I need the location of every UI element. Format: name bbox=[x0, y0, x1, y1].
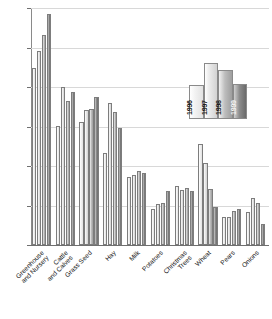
bar-group bbox=[127, 8, 146, 245]
legend-label: 1998 bbox=[215, 100, 222, 115]
bar bbox=[190, 191, 194, 246]
bar bbox=[208, 189, 212, 245]
bar bbox=[137, 171, 141, 245]
y-axis-tick-mark bbox=[27, 48, 31, 49]
bar bbox=[166, 191, 170, 246]
bar bbox=[37, 51, 41, 245]
bar bbox=[127, 177, 131, 245]
bar bbox=[132, 175, 136, 245]
bar bbox=[161, 203, 165, 245]
y-axis-tick-mark bbox=[27, 166, 31, 167]
bar bbox=[256, 203, 260, 245]
bar bbox=[118, 128, 122, 245]
x-axis-label: Wheat bbox=[194, 249, 213, 268]
x-axis-label-line: Hay bbox=[103, 249, 117, 263]
legend-label: 1999 bbox=[230, 100, 237, 115]
bar bbox=[66, 101, 70, 245]
x-axis-label-line: Pears bbox=[219, 249, 236, 266]
bar-group bbox=[56, 8, 75, 245]
bar-group bbox=[32, 8, 51, 245]
bar bbox=[156, 204, 160, 245]
bar-group bbox=[79, 8, 98, 245]
bar bbox=[89, 109, 93, 245]
bar bbox=[113, 112, 117, 245]
y-axis-tick-mark bbox=[27, 206, 31, 207]
bar bbox=[108, 103, 112, 245]
bar bbox=[61, 87, 65, 245]
bar bbox=[261, 224, 265, 245]
bar bbox=[71, 92, 75, 245]
bar-group bbox=[151, 8, 170, 245]
bar bbox=[42, 35, 46, 245]
bar bbox=[213, 207, 217, 245]
plot-area bbox=[31, 8, 269, 245]
y-axis-tick-mark bbox=[27, 8, 31, 9]
bar bbox=[94, 97, 98, 245]
x-axis-label: ChristmasTrees bbox=[162, 249, 193, 280]
chart-legend: 1996199719981999 bbox=[189, 63, 247, 119]
bar bbox=[180, 190, 184, 245]
bar bbox=[222, 217, 226, 245]
x-axis-line bbox=[31, 245, 269, 246]
bar bbox=[56, 126, 60, 245]
y-axis-tick-mark bbox=[27, 87, 31, 88]
x-axis-label: Hay bbox=[103, 249, 117, 263]
bar bbox=[32, 68, 36, 245]
bar bbox=[84, 110, 88, 245]
bar bbox=[227, 217, 231, 245]
bar bbox=[198, 144, 202, 246]
legend-label: 1996 bbox=[186, 100, 193, 115]
bar-group bbox=[103, 8, 122, 245]
bar bbox=[175, 186, 179, 245]
bar bbox=[79, 122, 83, 245]
bar bbox=[151, 209, 155, 245]
legend-label: 1997 bbox=[201, 100, 208, 115]
x-axis-label: Milk bbox=[127, 249, 141, 263]
bar bbox=[251, 198, 255, 245]
bar bbox=[47, 14, 51, 245]
y-axis-tick-mark bbox=[27, 245, 31, 246]
bar bbox=[103, 153, 107, 245]
x-axis-label: Pears bbox=[219, 249, 236, 266]
bar bbox=[203, 163, 207, 245]
bar bbox=[232, 211, 236, 245]
bar bbox=[185, 188, 189, 245]
y-axis-tick-mark bbox=[27, 127, 31, 128]
bar-group bbox=[198, 8, 217, 245]
bar-chart: $0$100$200$300$400$500$600 Greenhouseand… bbox=[0, 0, 272, 319]
x-axis-label-line: Onions bbox=[240, 249, 260, 269]
bar-group bbox=[222, 8, 241, 245]
x-axis-label-line: Wheat bbox=[194, 249, 213, 268]
bar bbox=[142, 173, 146, 245]
x-axis-label: Onions bbox=[240, 249, 260, 269]
bar bbox=[246, 212, 250, 245]
bar-group bbox=[246, 8, 265, 245]
bar bbox=[237, 209, 241, 245]
bar-group bbox=[175, 8, 194, 245]
x-axis-label-line: Milk bbox=[127, 249, 141, 263]
